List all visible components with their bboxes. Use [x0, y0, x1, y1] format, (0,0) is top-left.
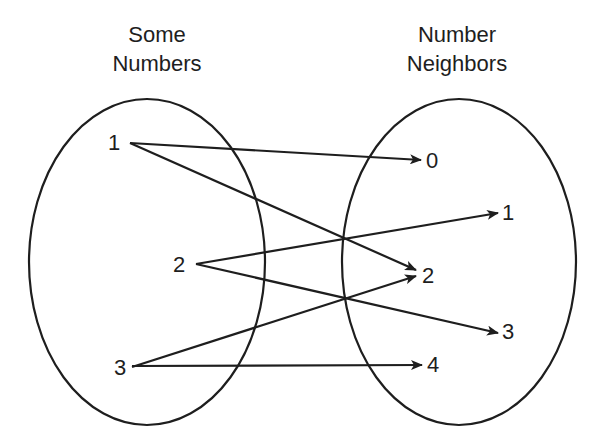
codomain-element-1: 1 [502, 202, 514, 224]
domain-element-1: 1 [108, 132, 120, 154]
codomain-element-2: 2 [422, 265, 434, 287]
arrow-2-to-1 [196, 213, 498, 264]
domain-element-3: 3 [114, 357, 126, 379]
arrow-3-to-4 [132, 365, 422, 366]
codomain-set-title: Number Neighbors [357, 20, 557, 78]
codomain-element-0: 0 [426, 150, 438, 172]
domain-title-line2: Numbers [57, 49, 257, 78]
domain-element-2: 2 [173, 254, 185, 276]
domain-set-title: Some Numbers [57, 20, 257, 78]
codomain-title-line1: Number [357, 20, 557, 49]
codomain-element-4: 4 [427, 354, 439, 376]
mapping-diagram: Some Numbers Number Neighbors 1 2 3 0 1 … [0, 0, 594, 447]
codomain-title-line2: Neighbors [357, 49, 557, 78]
arrow-3-to-2 [132, 276, 416, 367]
codomain-element-3: 3 [502, 321, 514, 343]
codomain-set-ellipse [342, 99, 576, 425]
domain-title-line1: Some [57, 20, 257, 49]
